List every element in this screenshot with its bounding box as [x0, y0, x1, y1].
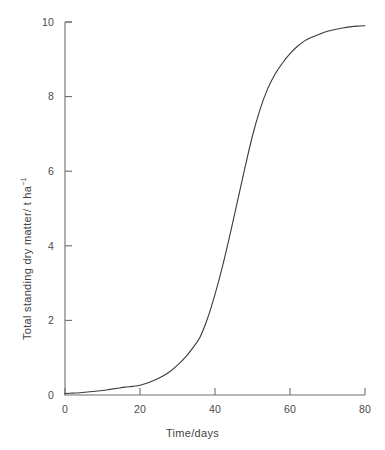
chart-axes [65, 22, 365, 395]
y-tick-label-2: 2 [32, 314, 54, 326]
chart-x-ticks [65, 388, 290, 395]
y-axis-title: Total standing dry matter/ t ha−1 [19, 177, 33, 340]
y-tick-label-6: 6 [32, 165, 54, 177]
y-axis-title-exponent: −1 [19, 177, 28, 186]
x-axis-title: Time/days [0, 427, 385, 439]
chart-line-series [65, 26, 365, 394]
x-tick-label-20: 20 [128, 403, 152, 415]
x-tick-label-40: 40 [203, 403, 227, 415]
y-tick-label-0: 0 [32, 389, 54, 401]
x-tick-label-80: 80 [353, 403, 377, 415]
y-tick-label-10: 10 [32, 16, 54, 28]
y-axis-title-text: Total standing dry matter/ t ha [21, 186, 33, 340]
chart-y-ticks [65, 22, 72, 320]
x-tick-label-60: 60 [278, 403, 302, 415]
y-tick-label-8: 8 [32, 90, 54, 102]
chart-plot-area [0, 0, 385, 450]
y-tick-label-4: 4 [32, 240, 54, 252]
x-tick-label-0: 0 [53, 403, 77, 415]
chart-figure: 10 8 6 4 2 0 0 20 40 60 80 Time/days Tot… [0, 0, 385, 450]
